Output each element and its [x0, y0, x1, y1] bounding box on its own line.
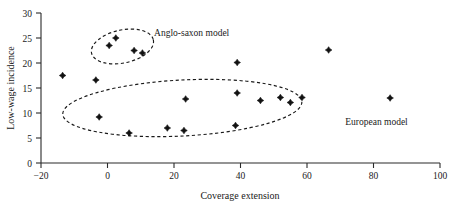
y-tick-label-10: 10 — [23, 109, 33, 119]
cluster-labels-layer: Anglo-saxon modelEuropean model — [154, 28, 408, 127]
data-point — [232, 122, 239, 129]
anglo-saxon-cluster-label: Anglo-saxon model — [154, 28, 230, 38]
cluster-annotations-layer — [61, 24, 303, 142]
data-point — [277, 94, 284, 101]
y-tick-label-5: 5 — [27, 134, 32, 144]
data-point — [93, 77, 100, 84]
data-point — [325, 47, 332, 54]
data-point — [59, 72, 66, 79]
data-point — [387, 95, 394, 102]
y-tick-label-15: 15 — [23, 84, 33, 94]
european-cluster-label: European model — [345, 117, 408, 127]
y-axis-title: Low-wage incidence — [5, 46, 16, 130]
x-axis-tick-labels: −20 0 20 40 60 80 100 — [34, 171, 448, 181]
chart-canvas: 0 5 10 15 20 25 30 −20 0 20 40 60 80 100 — [0, 0, 457, 206]
y-axis-tick-labels: 0 5 10 15 20 25 30 — [23, 9, 33, 169]
data-point — [96, 114, 103, 121]
y-tick-label-30: 30 — [23, 9, 33, 19]
y-tick-label-0: 0 — [27, 159, 32, 169]
data-point — [234, 90, 241, 97]
data-point — [113, 35, 120, 42]
anglo-saxon-cluster-ellipse — [88, 24, 157, 69]
data-point — [106, 42, 113, 49]
data-point — [126, 130, 133, 137]
data-points-layer — [59, 35, 393, 137]
x-axis-ticks — [41, 163, 440, 168]
european-cluster-ellipse — [61, 74, 303, 142]
data-point — [131, 47, 138, 54]
y-axis-ticks — [36, 13, 41, 163]
x-tick-label-20: 20 — [169, 171, 179, 181]
y-tick-label-25: 25 — [23, 34, 33, 44]
x-tick-label-100: 100 — [433, 171, 448, 181]
x-axis-title: Coverage extension — [200, 190, 279, 201]
x-tick-label-80: 80 — [369, 171, 379, 181]
data-point — [182, 96, 189, 103]
data-point — [257, 97, 264, 104]
data-point — [181, 127, 188, 134]
data-point — [234, 59, 241, 66]
x-tick-label-60: 60 — [302, 171, 312, 181]
x-tick-label-40: 40 — [236, 171, 246, 181]
scatter-chart-figure: 0 5 10 15 20 25 30 −20 0 20 40 60 80 100 — [0, 0, 457, 206]
data-point — [164, 125, 171, 132]
data-point — [299, 94, 306, 101]
x-tick-label-neg20: −20 — [34, 171, 49, 181]
data-point — [287, 99, 294, 106]
x-tick-label-0: 0 — [105, 171, 110, 181]
y-tick-label-20: 20 — [23, 59, 33, 69]
